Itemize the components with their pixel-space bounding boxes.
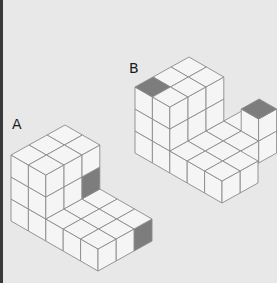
isometric-cube-figure bbox=[0, 0, 277, 283]
structure-a-cubes bbox=[11, 125, 152, 271]
structure-b-cubes bbox=[135, 57, 277, 203]
structure-b-label: B bbox=[129, 61, 139, 75]
structure-a-label: A bbox=[12, 117, 22, 131]
